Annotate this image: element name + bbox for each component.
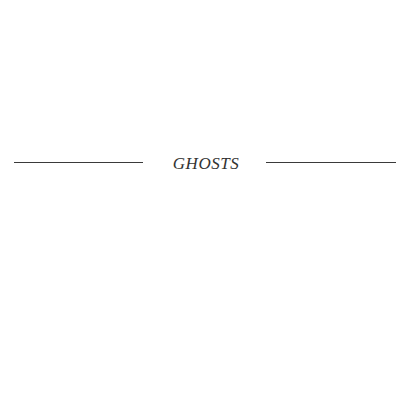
section-title: GHOSTS bbox=[0, 154, 412, 174]
right-divider-line bbox=[266, 162, 396, 163]
